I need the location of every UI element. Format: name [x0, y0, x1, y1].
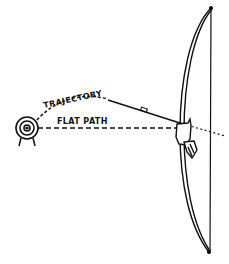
target-icon	[16, 117, 38, 146]
arrow-icon	[108, 100, 183, 124]
hand-icon	[176, 119, 197, 158]
archery-diagram: TRAJECTORY FLAT PATH	[0, 0, 229, 264]
flat-path-label: FLAT PATH	[57, 117, 108, 126]
trajectory-label: TRAJECTORY	[43, 89, 103, 110]
